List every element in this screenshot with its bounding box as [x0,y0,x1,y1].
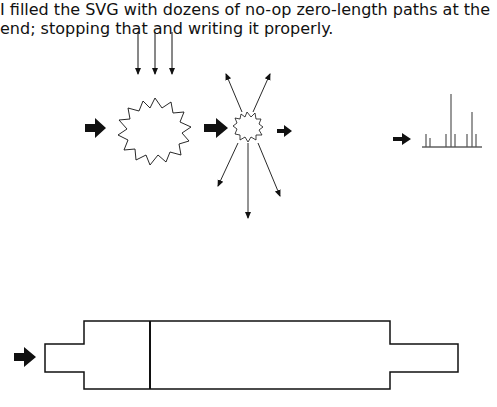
fragment-arrows [218,74,280,218]
ionization-arrows [138,32,172,74]
arrow-icon [277,125,292,137]
starburst-large [118,98,191,165]
mass-spectrum-chart [422,94,482,147]
instrument-outline [45,321,458,389]
arrow-icon [393,133,411,145]
starburst-small [233,112,263,142]
arrow-icon [85,118,106,138]
arrow-icon [14,347,36,367]
arrow-icon [204,118,228,138]
diagram-graphics [0,0,497,407]
